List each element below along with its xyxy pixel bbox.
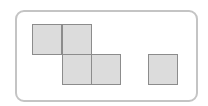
z-shape-square-3 — [91, 54, 121, 85]
z-shape-square-0 — [32, 24, 62, 55]
z-shape-square-1 — [62, 24, 92, 55]
z-shape-square-2 — [62, 54, 92, 85]
single-square-0 — [148, 54, 178, 85]
